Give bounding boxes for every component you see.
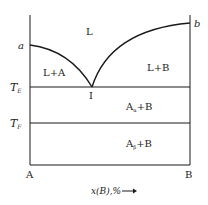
x-axis-label: x(B),% (91, 186, 121, 196)
component-b-label: B (185, 169, 192, 180)
te-label: TE (10, 81, 22, 94)
phase-diagram: a b I TE TF L L+A L+B Aα+B Aβ+B A B x(B)… (0, 0, 208, 205)
tf-label: TF (10, 117, 22, 130)
component-a-label: A (25, 169, 34, 180)
region-liquid-plus-a: L+A (43, 67, 66, 78)
liquidus-curve-a (30, 45, 92, 87)
region-liquid: L (86, 26, 93, 37)
liquidus-curve-b (92, 23, 190, 87)
region-beta-plus-b: Aβ+B (125, 138, 152, 151)
point-b-label: b (194, 18, 200, 29)
right-arrow-icon (122, 189, 137, 194)
region-alpha-plus-b: Aα+B (125, 101, 152, 113)
point-a-label: a (18, 40, 24, 51)
region-liquid-plus-b: L+B (147, 62, 169, 73)
eutectic-point-label: I (89, 90, 93, 101)
